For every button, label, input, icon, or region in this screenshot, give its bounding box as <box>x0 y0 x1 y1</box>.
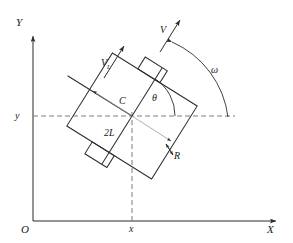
axis-lines <box>33 36 276 221</box>
wheelbase-arrow-right <box>132 116 171 141</box>
origin-label: O <box>21 223 29 235</box>
center-point-label: C <box>119 95 126 106</box>
angular-velocity-label: ω <box>211 64 218 75</box>
left-wheel-rect <box>85 142 114 168</box>
left-wheel-velocity-subscript: L <box>107 63 111 70</box>
wheel-radius-label: R <box>174 150 180 161</box>
velocity-label: V <box>160 24 166 35</box>
y-axis-label: Y <box>16 16 22 28</box>
left-wheel-velocity-label: VL <box>101 57 111 68</box>
x-axis-label: X <box>267 223 274 235</box>
robot-kinematics-figure: Y X O y x C θ ω V VL 2L R <box>0 0 293 243</box>
x-coordinate-label: x <box>129 223 133 234</box>
diagram-canvas <box>0 0 293 243</box>
projection-lines <box>33 112 235 221</box>
wheelbase-arrow-left <box>93 91 132 116</box>
y-coordinate-label: y <box>15 110 19 121</box>
theta-angle-arc <box>155 79 175 116</box>
heading-angle-label: θ <box>152 92 157 103</box>
wheel-base-label: 2L <box>104 127 115 138</box>
angular-velocity-arc <box>172 42 228 117</box>
right-wheel-rect <box>138 57 167 83</box>
